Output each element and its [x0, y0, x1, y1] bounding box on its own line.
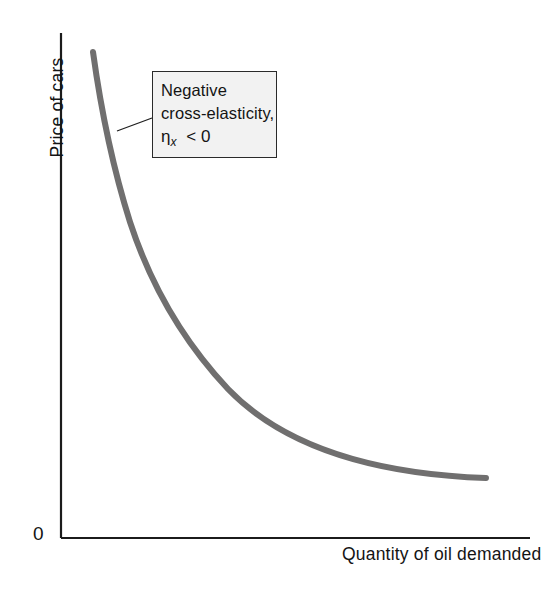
x-axis-label: Quantity of oil demanded — [342, 544, 541, 565]
annotation-leader-line — [117, 118, 152, 131]
annotation-line-1: Negative — [161, 79, 276, 102]
eta-symbol: η — [161, 127, 171, 146]
y-axis-label: Price of cars — [47, 28, 68, 188]
annotation-callout-box: Negative cross-elasticity, ηx < 0 — [152, 71, 277, 158]
annotation-line-2: cross-elasticity, — [161, 102, 276, 125]
cross-elasticity-figure: Price of cars Quantity of oil demanded 0… — [0, 0, 547, 589]
annotation-eta-line: ηx < 0 — [161, 125, 276, 154]
eta-relation: < 0 — [186, 127, 210, 146]
eta-subscript: x — [171, 135, 177, 149]
origin-label: 0 — [33, 523, 44, 545]
